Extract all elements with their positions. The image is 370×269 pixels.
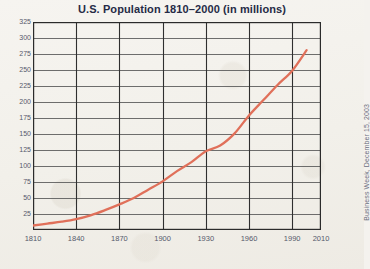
x-tick-label: 1960 bbox=[229, 234, 269, 243]
y-tick-label: 325 bbox=[3, 18, 31, 26]
x-tick-label: 1810 bbox=[13, 234, 53, 243]
y-tick-label: 25 bbox=[3, 210, 31, 218]
x-tick-label: 1900 bbox=[143, 234, 183, 243]
y-tick-label: 75 bbox=[3, 178, 31, 186]
y-tick-label: 300 bbox=[3, 34, 31, 42]
x-tick-label: 2010 bbox=[301, 234, 341, 243]
y-tick-label: 225 bbox=[3, 82, 31, 90]
y-axis-labels: 255075100125150175200225250275300325 bbox=[0, 22, 31, 230]
y-tick-label: 275 bbox=[3, 50, 31, 58]
y-tick-label: 250 bbox=[3, 66, 31, 74]
population-line bbox=[33, 50, 307, 225]
chart-canvas bbox=[33, 22, 321, 230]
y-tick-label: 200 bbox=[3, 98, 31, 106]
x-tick-label: 1870 bbox=[99, 234, 139, 243]
x-tick-label: 1840 bbox=[56, 234, 96, 243]
y-tick-label: 175 bbox=[3, 114, 31, 122]
chart-title: U.S. Population 1810–2000 (in millions) bbox=[0, 3, 364, 15]
x-tick-label: 1930 bbox=[186, 234, 226, 243]
x-axis-labels: 18101840187019001930196019902010 bbox=[33, 234, 321, 246]
y-tick-label: 100 bbox=[3, 162, 31, 170]
y-tick-label: 125 bbox=[3, 146, 31, 154]
source-credit: Business Week, December 15, 2003 bbox=[363, 104, 370, 221]
plot-area bbox=[33, 22, 321, 230]
y-tick-label: 50 bbox=[3, 194, 31, 202]
y-tick-label: 150 bbox=[3, 130, 31, 138]
